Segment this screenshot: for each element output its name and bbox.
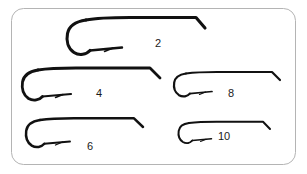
hook-size-label-10: 10 [218, 131, 230, 142]
panel-border [12, 9, 296, 165]
hook-size-chart-figure: 2 4 8 6 10 [0, 0, 307, 174]
hook-size-label-2: 2 [155, 38, 161, 49]
hook-size-label-8: 8 [228, 88, 234, 99]
hook-diagram-canvas [0, 0, 307, 174]
hook-size-label-4: 4 [96, 88, 102, 99]
hook-size-label-6: 6 [87, 141, 93, 152]
